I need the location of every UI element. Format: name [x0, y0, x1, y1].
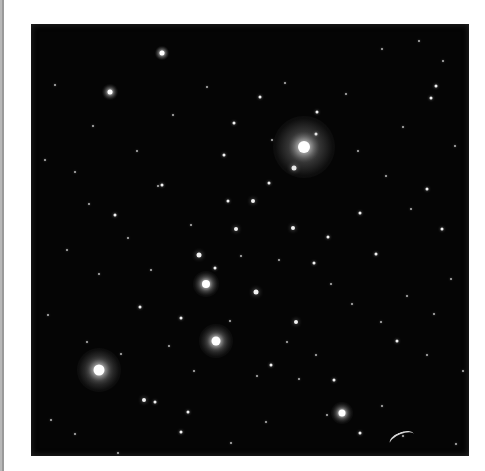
star [180, 431, 183, 434]
star [259, 96, 262, 99]
star [359, 212, 362, 215]
star [430, 97, 433, 100]
star-cluster-photo: Black-and-white astronomical photograph … [31, 24, 469, 456]
star [230, 442, 232, 444]
star [139, 306, 142, 309]
star [441, 228, 444, 231]
star [291, 226, 295, 230]
star [193, 370, 195, 372]
star [120, 353, 122, 355]
star [154, 401, 157, 404]
star [92, 125, 94, 127]
star [396, 340, 399, 343]
star [268, 182, 271, 185]
bright-star [94, 365, 105, 376]
star [406, 295, 408, 297]
star [402, 126, 404, 128]
bright-star [202, 280, 210, 288]
left-edge-bar [0, 0, 4, 471]
star [88, 203, 90, 205]
star [180, 317, 183, 320]
star [326, 414, 328, 416]
star [74, 433, 76, 435]
star [86, 341, 88, 343]
star [351, 303, 353, 305]
star [66, 249, 68, 251]
star [233, 122, 236, 125]
star [357, 150, 359, 152]
bright-star [108, 90, 113, 95]
star [117, 452, 119, 454]
star [270, 364, 273, 367]
star [265, 421, 267, 423]
star [359, 432, 362, 435]
star [286, 341, 288, 343]
star [455, 443, 457, 445]
star [298, 378, 300, 380]
star [327, 236, 330, 239]
star [98, 273, 100, 275]
star [330, 283, 332, 285]
bright-star [160, 51, 165, 56]
star [240, 255, 242, 257]
star [54, 84, 56, 86]
star [157, 185, 159, 187]
star [142, 398, 146, 402]
star [442, 60, 444, 62]
star [418, 40, 420, 42]
star [381, 48, 383, 50]
star [223, 154, 226, 157]
star [462, 370, 464, 372]
star [316, 111, 319, 114]
bright-star [298, 141, 310, 153]
star [74, 171, 76, 173]
light-streak-artifact [387, 428, 416, 451]
star [114, 214, 117, 217]
star [187, 411, 190, 414]
star [454, 145, 456, 147]
star [375, 253, 378, 256]
star [426, 354, 428, 356]
star [410, 208, 412, 210]
star [214, 267, 217, 270]
star [168, 345, 170, 347]
bright-star [339, 410, 346, 417]
star [44, 159, 46, 161]
star [234, 227, 238, 231]
star [206, 86, 208, 88]
left-edge-bar-highlight [0, 0, 2, 471]
star [197, 253, 202, 258]
star [435, 85, 438, 88]
star [251, 199, 255, 203]
star [47, 314, 49, 316]
star [284, 82, 286, 84]
star [229, 320, 231, 322]
star [254, 290, 259, 295]
star [433, 313, 435, 315]
star [333, 379, 336, 382]
star [381, 405, 383, 407]
star [161, 184, 164, 187]
star [136, 150, 138, 152]
star [172, 114, 174, 116]
star [278, 259, 280, 261]
star [450, 278, 452, 280]
star [256, 375, 258, 377]
star [150, 269, 152, 271]
star [380, 321, 382, 323]
star [190, 224, 192, 226]
star [345, 93, 347, 95]
star [313, 262, 316, 265]
star [294, 320, 298, 324]
star [50, 419, 52, 421]
star [227, 200, 230, 203]
star [315, 354, 317, 356]
star [426, 188, 429, 191]
bright-star [212, 337, 221, 346]
star [127, 237, 129, 239]
star [385, 175, 387, 177]
